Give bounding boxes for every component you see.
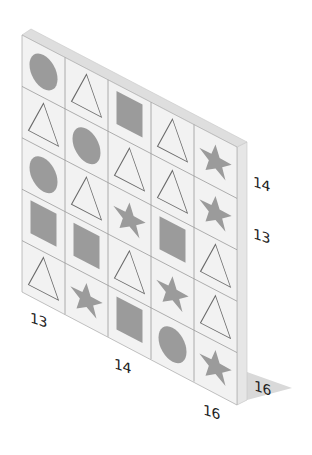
panel-right-edge bbox=[237, 142, 247, 405]
puzzle-diagram: 14 13 13 14 16 16 bbox=[0, 0, 312, 455]
